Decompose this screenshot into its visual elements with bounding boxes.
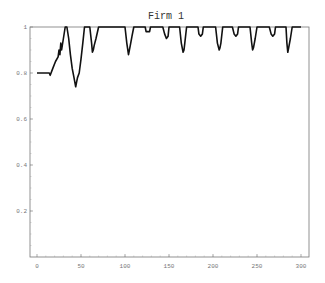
y-tick-label: 0.2 (16, 208, 27, 215)
x-tick-label: 100 (120, 263, 131, 270)
line-chart: Firm 1 0.20.40.60.81 050100150200250300 (0, 0, 325, 283)
chart-title: Firm 1 (148, 11, 184, 22)
y-tick-label: 0.8 (16, 70, 27, 77)
x-tick-label: 300 (296, 263, 307, 270)
y-tick-label: 0.4 (16, 162, 27, 169)
x-tick-label: 150 (164, 263, 175, 270)
y-axis: 0.20.40.60.81 (16, 24, 33, 246)
x-tick-label: 50 (77, 263, 85, 270)
x-tick-label: 250 (252, 263, 263, 270)
y-tick-label: 1 (23, 24, 27, 31)
y-tick-label: 0.6 (16, 116, 27, 123)
series-line-firm-1 (37, 27, 301, 87)
x-axis: 050100150200250300 (35, 254, 307, 270)
x-tick-label: 200 (208, 263, 219, 270)
x-tick-label: 0 (35, 263, 39, 270)
